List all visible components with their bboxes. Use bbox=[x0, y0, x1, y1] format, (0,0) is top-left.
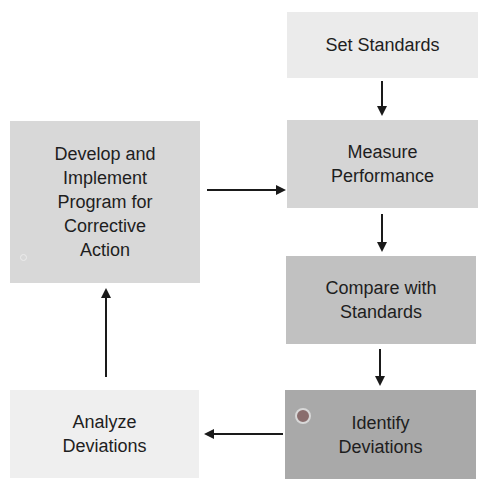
arrows bbox=[0, 0, 499, 495]
